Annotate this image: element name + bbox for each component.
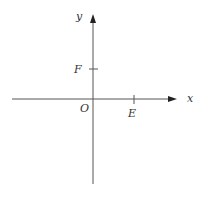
x-axis-arrow-icon <box>168 96 177 102</box>
y-axis-arrow-icon <box>90 14 96 23</box>
point-e-label: E <box>127 107 136 120</box>
coordinate-diagram: y x O F E <box>0 0 202 197</box>
origin-label: O <box>80 102 89 115</box>
x-axis-label: x <box>187 92 194 105</box>
y-axis-label: y <box>75 10 83 23</box>
point-f-label: F <box>73 63 82 76</box>
